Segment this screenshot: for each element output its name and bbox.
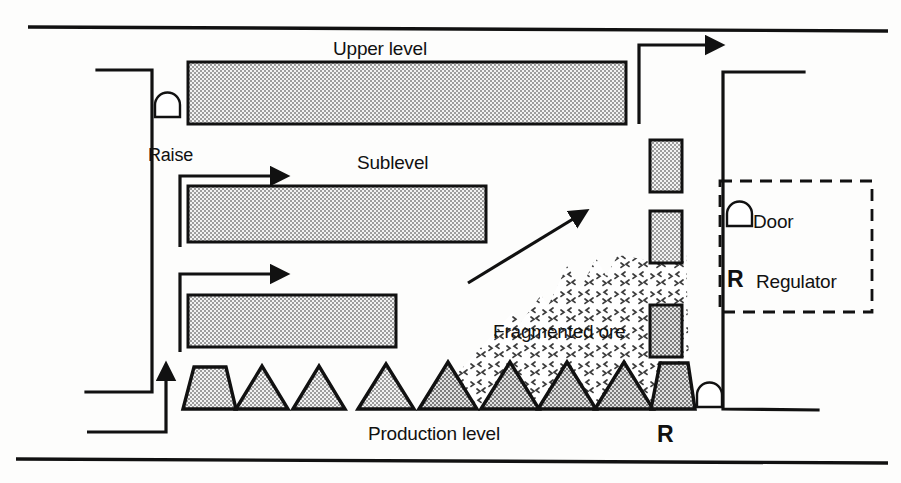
label-production-level: Production level bbox=[368, 423, 500, 445]
legend-item-regulator-label: Regulator bbox=[756, 271, 837, 293]
door-production-right bbox=[697, 382, 722, 407]
legend-item-door-label: Door bbox=[753, 211, 793, 233]
draw-point-4 bbox=[358, 364, 414, 409]
legend-door-icon bbox=[727, 201, 752, 226]
draw-point-9 bbox=[651, 363, 695, 409]
sublevel-drift-2 bbox=[188, 295, 396, 347]
door-upper-raise bbox=[155, 92, 180, 117]
draw-point-3 bbox=[293, 366, 345, 409]
draw-points bbox=[183, 362, 695, 409]
label-regulator-marker: R bbox=[657, 421, 674, 448]
mine-schematic-svg bbox=[0, 0, 901, 483]
legend-regulator-glyph: R bbox=[727, 266, 743, 293]
arrow-production-intake bbox=[87, 374, 166, 432]
raise-airway bbox=[86, 70, 152, 392]
right-main-airway bbox=[723, 72, 818, 410]
diagram-canvas: Upper level Sublevel Raise Fragmented or… bbox=[0, 0, 901, 483]
draw-point-2 bbox=[236, 366, 288, 409]
upper-level-drift bbox=[188, 62, 626, 124]
vertical-drift-1 bbox=[650, 140, 682, 192]
sublevel-drift-1 bbox=[188, 186, 486, 242]
draw-point-1 bbox=[183, 367, 236, 409]
vertical-drift-2 bbox=[650, 211, 682, 263]
vertical-drifts bbox=[650, 140, 682, 357]
label-sublevel: Sublevel bbox=[357, 152, 428, 174]
arrow-exhaust-top-right bbox=[639, 45, 712, 124]
label-upper-level: Upper level bbox=[333, 38, 427, 60]
label-fragmented-ore: Fragmented ore bbox=[493, 321, 625, 343]
label-raise: Raise bbox=[148, 145, 193, 166]
vertical-drift-3 bbox=[650, 305, 682, 357]
